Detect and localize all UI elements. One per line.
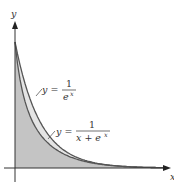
area-between-curves-diagram: x y y = 1 e x y = 1 x + e x bbox=[0, 0, 174, 191]
y-axis-arrow-icon bbox=[12, 21, 18, 29]
curve1-denominator: e bbox=[63, 91, 69, 102]
curve2-denominator: x + e bbox=[76, 132, 101, 143]
curve1-numerator: 1 bbox=[66, 78, 72, 89]
curve1-denominator-exp: x bbox=[70, 90, 74, 98]
curve2-denominator-exp: x bbox=[104, 131, 108, 139]
curve1-lhs: y = bbox=[41, 84, 58, 95]
y-axis-label: y bbox=[10, 8, 17, 19]
curve2-numerator: 1 bbox=[89, 119, 95, 130]
region-under-lower-curve bbox=[15, 42, 165, 168]
x-axis-label: x bbox=[170, 171, 174, 182]
curve2-lhs: y = bbox=[55, 126, 72, 137]
